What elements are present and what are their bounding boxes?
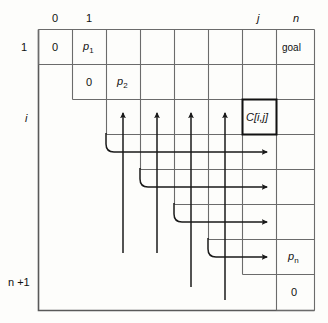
column-label-0: 0 [52, 13, 58, 24]
cell-r0c1-value: p1 [83, 41, 94, 56]
row-label-1: 1 [21, 42, 27, 53]
column-label-n: n [293, 13, 299, 24]
row-label-n-plus-1: n +1 [8, 277, 30, 288]
row-label-i: i [25, 113, 27, 124]
cell-r6c7-value: pn [288, 251, 299, 266]
grid-svg [0, 0, 328, 323]
cell-r0c0-value: 0 [52, 42, 58, 53]
grid-lines [39, 30, 315, 311]
cell-r1c2-subscript: 2 [123, 81, 127, 90]
cell-r0c1-subscript: 1 [89, 46, 93, 55]
column-label-j: j [257, 13, 259, 24]
dp-table-diagram: 0 1 j n 1 i n +1 0 p1 goal 0 p2 C[i,j] p… [0, 0, 328, 323]
cell-r1c1-value: 0 [86, 77, 92, 88]
column-label-1: 1 [86, 13, 92, 24]
cell-r0c7-value: goal [282, 42, 301, 53]
cell-r6c7-subscript: n [294, 256, 298, 265]
cell-cij-value: C[i,j] [246, 112, 268, 123]
cell-r7c7-value: 0 [291, 287, 297, 298]
cell-r1c2-value: p2 [117, 76, 128, 91]
